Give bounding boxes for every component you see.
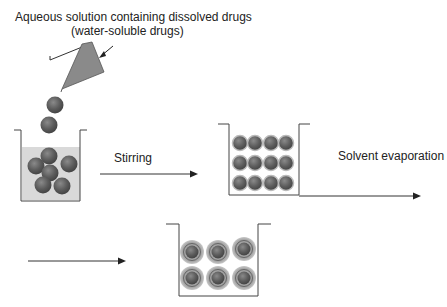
mixing-beaker <box>14 130 87 201</box>
process-diagram <box>0 0 447 307</box>
pouring-vessel <box>50 42 104 92</box>
falling-particles <box>41 97 64 134</box>
coated-particles-grid <box>233 136 294 191</box>
final-beaker <box>166 224 271 296</box>
evaporation-arrow-icon <box>299 193 421 200</box>
pour-arrow-icon <box>99 46 113 58</box>
stirred-beaker <box>218 124 310 195</box>
stirring-arrow-icon <box>100 171 198 178</box>
core-shell-particles-grid <box>180 237 256 290</box>
final-arrow-icon <box>28 258 126 265</box>
